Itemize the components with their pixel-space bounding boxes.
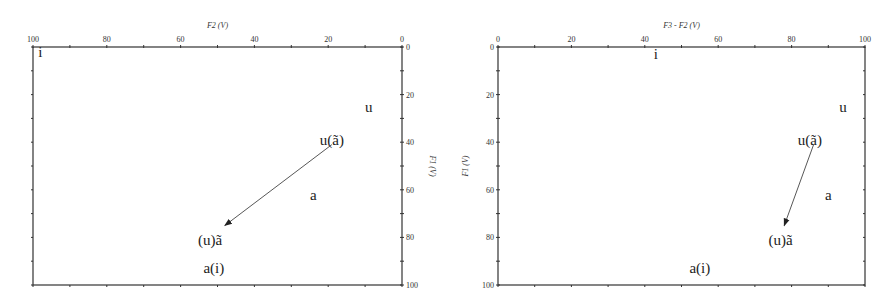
x-tick-label: 100 <box>859 35 871 44</box>
x-tick-label: 40 <box>641 35 649 44</box>
y-tick-label: 40 <box>406 138 414 147</box>
y-tick-label: 60 <box>406 186 414 195</box>
y-tick-label: 0 <box>490 43 494 52</box>
x-tick-label: 80 <box>788 35 796 44</box>
x-tick-label: 100 <box>27 35 39 44</box>
x-tick-label: 0 <box>400 35 404 44</box>
x-axis-label: F2 (V) <box>206 21 228 30</box>
y-tick-label: 20 <box>486 91 494 100</box>
vowel-label: a(i) <box>689 260 710 277</box>
x-tick-label: 40 <box>250 35 258 44</box>
vowel-label: a(i) <box>203 260 224 277</box>
y-tick-label: 20 <box>406 91 414 100</box>
x-tick-label: 80 <box>103 35 111 44</box>
y-tick-label: 100 <box>406 281 418 290</box>
shift-arrow <box>225 145 332 226</box>
y-tick-label: 100 <box>482 281 494 290</box>
y-tick-label: 80 <box>486 233 494 242</box>
vowel-label: u <box>839 99 847 115</box>
x-tick-label: 0 <box>496 35 500 44</box>
vowel-label: u <box>365 99 373 115</box>
vowel-label: a <box>310 187 317 203</box>
y-axis-label: F1 (V) <box>428 154 437 176</box>
y-tick-label: 0 <box>406 43 410 52</box>
shift-arrow <box>784 145 813 226</box>
y-axis-label: F1 (V) <box>461 155 470 177</box>
vowel-label: (u)ã <box>769 232 793 249</box>
plot-frame-1 <box>33 47 402 285</box>
plot-frame-2 <box>498 47 865 285</box>
x-tick-label: 20 <box>567 35 575 44</box>
y-tick-label: 40 <box>486 138 494 147</box>
vowel-label: i <box>654 46 658 62</box>
x-tick-label: 60 <box>177 35 185 44</box>
vowel-charts: 100806040200F2 (V)020406080100F1 (V)iuu(… <box>0 0 895 308</box>
x-tick-label: 60 <box>714 35 722 44</box>
vowel-label: u(ã) <box>320 132 344 149</box>
x-tick-label: 20 <box>324 35 332 44</box>
y-tick-label: 80 <box>406 233 414 242</box>
vowel-label: a <box>825 187 832 203</box>
y-tick-label: 60 <box>486 186 494 195</box>
vowel-label: (u)ã <box>198 232 222 249</box>
vowel-label: i <box>38 44 42 60</box>
vowel-label: u(ã) <box>798 132 822 149</box>
x-axis-label: F3 - F2 (V) <box>662 21 700 30</box>
